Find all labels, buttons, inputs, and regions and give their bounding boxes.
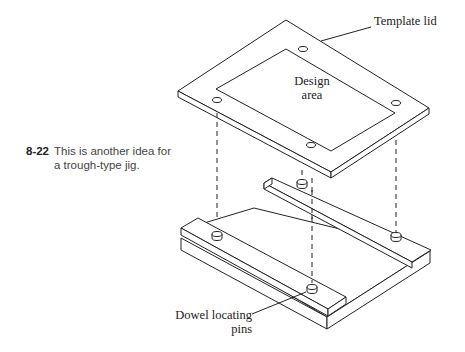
dowel-pin bbox=[297, 180, 307, 189]
dowel-pin bbox=[212, 232, 222, 241]
trough-jig-diagram bbox=[0, 0, 465, 352]
dowel-pin bbox=[307, 285, 317, 294]
dowel-label-line-2: pins bbox=[231, 322, 252, 336]
caption-line-1: This is another idea for bbox=[54, 145, 171, 157]
design-area-line-2: area bbox=[302, 88, 323, 102]
jig-base bbox=[181, 178, 431, 329]
figure-number: 8-22 bbox=[26, 144, 49, 158]
figure-caption-text: This is another idea for a trough-type j… bbox=[54, 144, 184, 172]
design-area-line-1: Design bbox=[294, 74, 329, 88]
template-lid-label: Template lid bbox=[374, 14, 437, 28]
dowel-pins-label: Dowel locating pins bbox=[166, 308, 252, 336]
dowel-pin bbox=[391, 233, 401, 242]
lid-leader-line bbox=[321, 27, 371, 41]
caption-line-2: a trough-type jig. bbox=[54, 159, 140, 171]
design-area-label: Design area bbox=[282, 74, 342, 102]
dowel-label-line-1: Dowel locating bbox=[175, 308, 252, 322]
